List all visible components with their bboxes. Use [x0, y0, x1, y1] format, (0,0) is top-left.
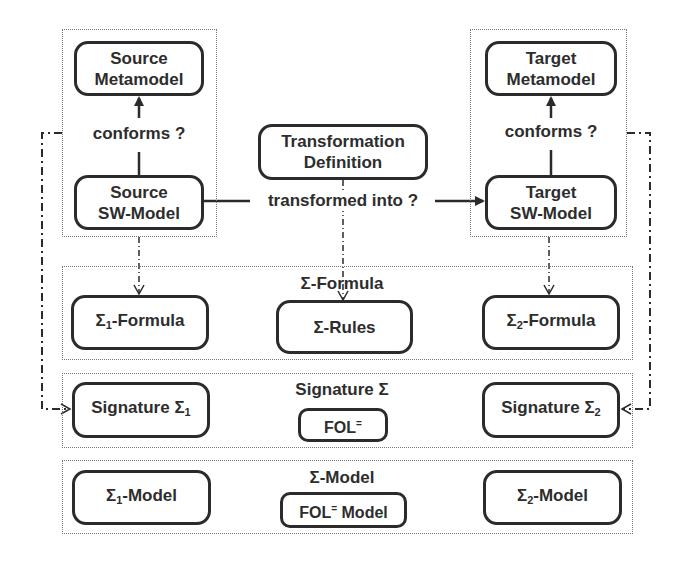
fol-eq-node: FOL= [298, 408, 388, 442]
target-metamodel-line2: Metamodel [507, 69, 596, 90]
model-layer-title: Σ-Model [310, 468, 375, 488]
sigma-rules-node: Σ-Rules [276, 300, 413, 354]
diagram-canvas: Source Metamodel conforms ? Source SW-Mo… [0, 0, 684, 563]
fol-text: FOL [324, 419, 356, 436]
signature-sigma1-node: Signature Σ1 [72, 382, 210, 438]
sigma2-formula-node: Σ2-Formula [482, 295, 620, 350]
source-conforms-label: conforms ? [93, 124, 186, 144]
fol-eq-label: FOL= [324, 413, 362, 438]
target-metamodel-line1: Target [507, 48, 596, 69]
signature-sigma2-node: Signature Σ2 [482, 382, 620, 438]
sigma2-model-label: Σ2-Model [517, 485, 588, 511]
subscript: 2 [595, 406, 601, 418]
signature-text: Signature Σ [501, 398, 594, 417]
sigma-rules-label: Σ-Rules [313, 317, 375, 338]
target-sw-model-node: Target SW-Model [485, 175, 617, 230]
transformation-definition-line2: Definition [281, 152, 405, 173]
subscript: 1 [185, 406, 191, 418]
suffix-text: -Formula [112, 311, 185, 330]
signature-layer-title: Signature Σ [295, 380, 388, 400]
source-sw-model-line2: SW-Model [98, 203, 180, 224]
sigma1-model-label: Σ1-Model [106, 485, 177, 511]
target-conforms-label: conforms ? [505, 122, 598, 142]
signature-sigma1-label: Signature Σ1 [91, 397, 190, 423]
signature-sigma2-label: Signature Σ2 [501, 397, 600, 423]
superscript: = [356, 418, 362, 429]
source-metamodel-line2: Metamodel [95, 69, 184, 90]
source-metamodel-node: Source Metamodel [74, 41, 204, 96]
suffix-text: -Formula [523, 311, 596, 330]
sigma1-formula-label: Σ1-Formula [95, 310, 184, 336]
suffix-text: -Model [122, 486, 177, 505]
transformation-definition-node: Transformation Definition [258, 124, 428, 180]
source-sw-model-line1: Source [98, 182, 180, 203]
sigma2-model-node: Σ2-Model [483, 470, 622, 525]
fol-text: FOL [299, 504, 331, 521]
suffix-text: -Model [533, 486, 588, 505]
source-metamodel-line1: Source [95, 48, 184, 69]
sigma1-formula-node: Σ1-Formula [71, 295, 209, 350]
sigma-symbol: Σ [517, 486, 527, 505]
target-metamodel-node: Target Metamodel [485, 41, 617, 96]
transformed-into-label: transformed into ? [268, 191, 418, 211]
sigma-symbol: Σ [106, 486, 116, 505]
formula-layer-title: Σ-Formula [301, 274, 384, 294]
fol-eq-model-node: FOL= Model [280, 492, 407, 528]
sigma-symbol: Σ [95, 311, 105, 330]
sigma1-model-node: Σ1-Model [72, 470, 211, 525]
target-sw-model-line1: Target [510, 182, 592, 203]
signature-text: Signature Σ [91, 398, 184, 417]
sigma-symbol: Σ [506, 311, 516, 330]
source-sw-model-node: Source SW-Model [74, 175, 204, 230]
transformation-definition-line1: Transformation [281, 131, 405, 152]
target-sw-model-line2: SW-Model [510, 203, 592, 224]
fol-eq-model-label: FOL= Model [299, 498, 388, 523]
model-text: Model [337, 504, 388, 521]
sigma2-formula-label: Σ2-Formula [506, 310, 595, 336]
